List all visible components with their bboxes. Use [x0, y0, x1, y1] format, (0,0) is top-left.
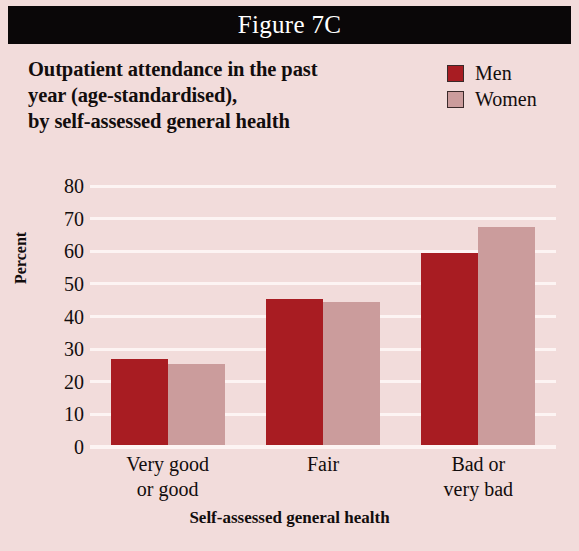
- x-axis-category-label: Bad orvery bad: [401, 452, 556, 502]
- plot-wrapper: Percent 01020304050607080 Very goodor go…: [0, 0, 579, 551]
- x-axis-title: Self-assessed general health: [0, 508, 579, 528]
- y-axis-tick-label: 60: [40, 240, 84, 263]
- y-axis-title: Percent: [12, 232, 30, 284]
- x-axis-category-label: Fair: [245, 452, 400, 477]
- bar-men-2: [266, 299, 323, 447]
- x-category-line-1: Bad or: [401, 452, 556, 477]
- bar-men-1: [111, 359, 168, 447]
- gridline: [90, 185, 556, 188]
- y-axis-tick-label: 50: [40, 272, 84, 295]
- x-category-line-2: or good: [90, 477, 245, 502]
- x-category-line-2: very bad: [401, 477, 556, 502]
- figure-container: Figure 7C Outpatient attendance in the p…: [0, 0, 579, 551]
- x-category-line-1: Very good: [90, 452, 245, 477]
- y-axis-tick-label: 30: [40, 338, 84, 361]
- x-axis-baseline: [90, 445, 556, 449]
- bar-women-1: [168, 364, 225, 447]
- y-axis-tick-label: 0: [40, 436, 84, 459]
- bar-women-2: [323, 302, 380, 447]
- y-axis-tick-label: 70: [40, 207, 84, 230]
- x-category-line-1: Fair: [245, 452, 400, 477]
- y-axis-tick-labels: 01020304050607080: [40, 186, 84, 447]
- y-axis-tick-label: 20: [40, 370, 84, 393]
- bar-men-3: [421, 253, 478, 447]
- y-axis-tick-label: 80: [40, 175, 84, 198]
- bar-women-3: [478, 227, 535, 447]
- y-axis-tick-label: 40: [40, 305, 84, 328]
- y-axis-tick-label: 10: [40, 403, 84, 426]
- x-axis-category-labels: Very goodor goodFairBad orvery bad: [90, 452, 556, 508]
- x-axis-category-label: Very goodor good: [90, 452, 245, 502]
- gridline: [90, 217, 556, 220]
- plot-area: [90, 186, 556, 447]
